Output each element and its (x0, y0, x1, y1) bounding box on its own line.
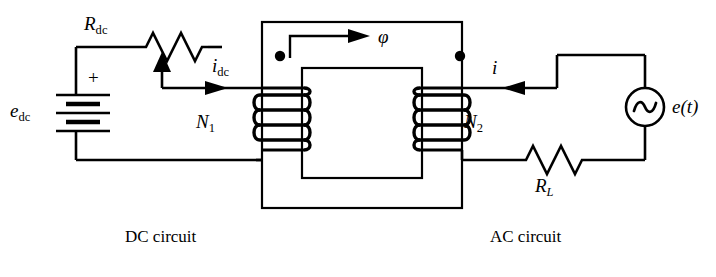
label-i-ac: i (492, 58, 497, 77)
core-inner-window (302, 68, 422, 178)
load-resistor-zigzag (518, 146, 588, 174)
label-r-load: RL (535, 176, 554, 198)
label-n2: N2 (464, 112, 483, 134)
transformer-circuit-figure: Rdc + edc idc N1 φ N2 i e(t) RL DC circu… (0, 0, 716, 277)
secondary-polarity-dot (455, 51, 465, 61)
label-n1: N1 (196, 112, 215, 134)
battery-symbol (56, 95, 110, 131)
label-i-dc: idc (212, 56, 229, 78)
rheostat-zigzag (138, 33, 208, 61)
dc-circuit-wiring (76, 47, 262, 160)
label-e-dc: edc (10, 101, 30, 123)
label-e-of-t: e(t) (672, 97, 698, 116)
caption-dc-circuit: DC circuit (125, 228, 196, 245)
ac-circuit-wiring (462, 55, 645, 160)
label-polarity-plus: + (88, 68, 99, 87)
primary-polarity-dot (275, 51, 285, 61)
rheostat-wiper-arrow (153, 52, 171, 72)
dc-current-arrowhead (205, 81, 228, 95)
label-r-dc: Rdc (84, 14, 107, 36)
caption-ac-circuit: AC circuit (490, 228, 561, 245)
core-outer-rectangle (262, 22, 462, 208)
flux-path (290, 36, 352, 58)
flux-arrowhead (348, 29, 370, 43)
label-flux-phi: φ (378, 27, 389, 46)
ac-current-arrowhead (502, 81, 525, 95)
circuit-schematic-svg (0, 0, 716, 277)
